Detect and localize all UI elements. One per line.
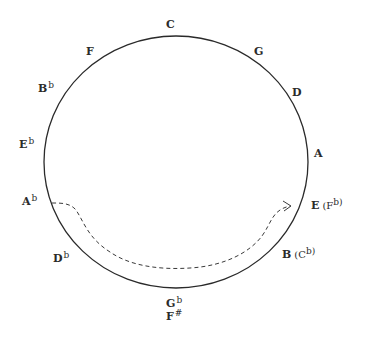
note-name: E xyxy=(311,199,319,212)
note-label-g: G xyxy=(254,45,263,58)
note-name: G xyxy=(254,45,263,58)
note-name: A xyxy=(21,195,31,208)
note-label-b: B(Cb) xyxy=(282,246,315,261)
flat-sign: b xyxy=(32,193,38,203)
enharmonic-flat-sign: b) xyxy=(333,197,342,207)
note-name: D xyxy=(292,86,302,99)
note-name: B xyxy=(282,248,291,261)
note-name: E xyxy=(19,138,27,151)
flat-sign: b xyxy=(48,80,54,90)
note-label-a: A xyxy=(313,147,323,160)
flat-sign: b xyxy=(28,136,34,146)
note-label-db: Db xyxy=(53,250,70,265)
note-name: A xyxy=(313,147,323,160)
note-labels: CGDAE(Fb)B(Cb)GbF#DbAbEbBbF xyxy=(19,18,343,323)
dashed-arrow-path xyxy=(52,203,290,268)
sharp-sign: # xyxy=(175,308,183,318)
note-name: B xyxy=(38,82,47,95)
note-label-e: E(Fb) xyxy=(311,197,343,212)
note-label-bb: Bb xyxy=(38,80,54,95)
fifths-circle xyxy=(44,36,308,288)
note-name: F xyxy=(86,45,94,58)
note-label-fs: F# xyxy=(166,308,182,323)
flat-sign: b xyxy=(176,295,182,305)
enharmonic-flat-sign: b) xyxy=(306,246,315,256)
enharmonic-name: (C xyxy=(294,249,306,260)
note-label-eb: Eb xyxy=(19,136,34,151)
note-label-ab: Ab xyxy=(21,193,38,208)
note-label-c: C xyxy=(166,18,175,31)
note-label-f: F xyxy=(86,45,94,58)
note-label-d: D xyxy=(292,86,302,99)
note-name: C xyxy=(166,18,175,31)
enharmonic-name: (F xyxy=(322,200,333,211)
flat-sign: b xyxy=(64,250,70,260)
note-name: F xyxy=(166,310,174,323)
note-name: D xyxy=(53,252,63,265)
circle-of-fifths-diagram: CGDAE(Fb)B(Cb)GbF#DbAbEbBbF xyxy=(0,0,366,339)
